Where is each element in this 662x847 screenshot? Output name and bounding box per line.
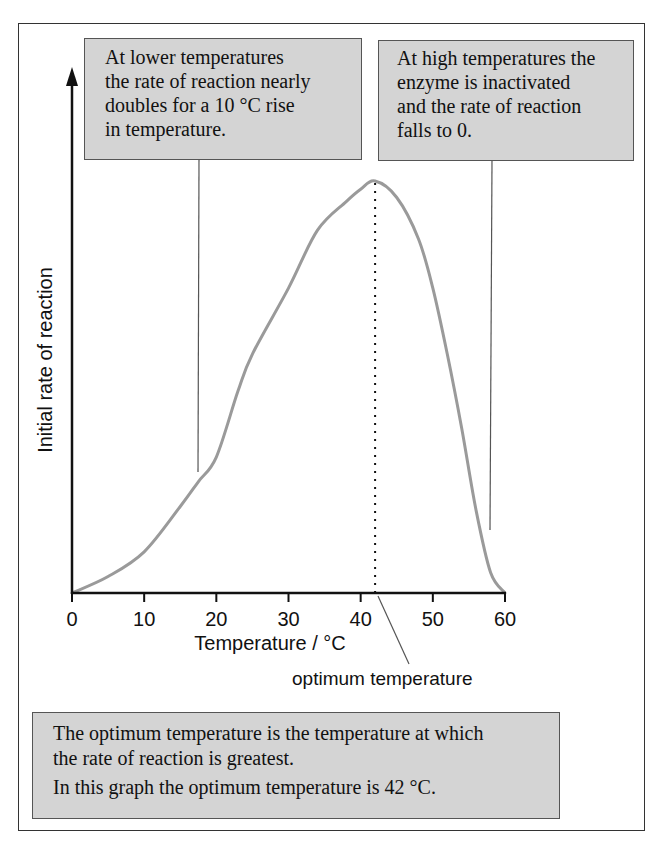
- high-temp-leader-line: [490, 161, 492, 530]
- y-axis-arrowhead-icon: [66, 67, 78, 86]
- optimum-definition-note: The optimum temperature is the temperatu…: [32, 712, 560, 819]
- optimum-leader-line: [378, 596, 409, 664]
- x-tick-label: 60: [494, 608, 516, 630]
- low-temp-leader-line: [198, 160, 199, 472]
- x-axis-label: Temperature / °C: [194, 632, 345, 654]
- x-axis-ticks: [72, 593, 505, 602]
- optimum-label: optimum temperature: [292, 668, 473, 689]
- x-tick-label: 20: [205, 608, 227, 630]
- y-axis-label: Initial rate of reaction: [34, 267, 56, 453]
- note-line: the rate of reaction is greatest.: [53, 746, 559, 771]
- x-tick-label: 40: [350, 608, 372, 630]
- note-line: The optimum temperature is the temperatu…: [53, 721, 559, 746]
- x-tick-label: 50: [422, 608, 444, 630]
- x-tick-labels: 0102030405060: [66, 608, 516, 630]
- rate-curve: [72, 181, 505, 593]
- x-tick-label: 10: [133, 608, 155, 630]
- note-line: In this graph the optimum temperature is…: [53, 775, 559, 800]
- x-tick-label: 0: [66, 608, 77, 630]
- x-tick-label: 30: [277, 608, 299, 630]
